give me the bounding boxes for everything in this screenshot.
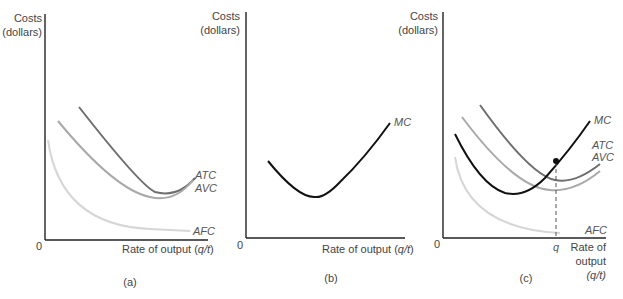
origin-label-c: 0 [434, 238, 440, 250]
atc-curve-a [79, 107, 195, 193]
x-axis-label-c-line1: Rate of [571, 241, 607, 253]
mc-curve-b [268, 123, 390, 197]
mc-label-c: MC [594, 114, 611, 126]
y-axis-label-b-line2: (dollars) [200, 24, 240, 36]
caption-b: (b) [324, 272, 337, 284]
x-axis-label-c-line3: (q/t) [586, 269, 606, 281]
avc-label-a: AVC [194, 182, 217, 194]
cost-curves-figure: Costs (dollars) 0 Rate of output (q/t) A… [0, 0, 623, 299]
y-axis-label-c-line1: Costs [410, 10, 439, 22]
y-axis-label-a-line2: (dollars) [2, 26, 42, 38]
atc-label-c: ATC [591, 139, 613, 151]
mc-atc-intersection-point [553, 158, 559, 164]
panel-a: Costs (dollars) 0 Rate of output (q/t) A… [2, 12, 217, 288]
afc-label-a: AFC [192, 225, 215, 237]
avc-curve-a [58, 121, 193, 198]
afc-label-c: AFC [584, 224, 607, 236]
x-axis-label-c-line2: output [575, 255, 606, 267]
origin-label-a: 0 [36, 240, 42, 252]
origin-label-b: 0 [237, 239, 243, 251]
mc-label-b: MC [394, 116, 411, 128]
q-label: q [553, 241, 560, 253]
y-axis-label-a-line1: Costs [14, 12, 43, 24]
y-axis-label-b-line1: Costs [212, 10, 241, 22]
atc-curve-c [480, 105, 600, 181]
panel-c: Costs (dollars) 0 MC ATC AVC AFC q Rate … [398, 10, 614, 284]
afc-curve-a [48, 140, 190, 231]
caption-c: (c) [520, 272, 533, 284]
panel-b: Costs (dollars) 0 Rate of output (q/t) M… [200, 10, 413, 284]
caption-a: (a) [123, 276, 136, 288]
y-axis-label-c-line2: (dollars) [398, 24, 438, 36]
x-axis-label-b: Rate of output (q/t) [322, 243, 414, 255]
atc-label-a: ATC [194, 169, 216, 181]
avc-curve-c [462, 117, 600, 190]
x-axis-label-a: Rate of output (q/t) [122, 243, 214, 255]
avc-label-c: AVC [591, 151, 614, 163]
